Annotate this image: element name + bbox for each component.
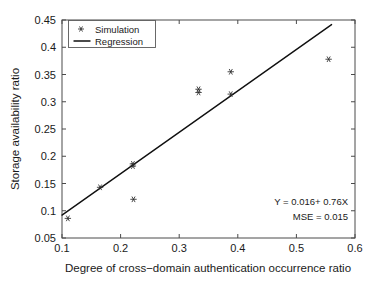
annotation-mse: MSE = 0.015 [293,211,348,222]
y-tick-label: 0.15 [35,178,56,190]
x-tick-label: 0.3 [172,242,187,254]
y-tick-label: 0.3 [41,96,56,108]
y-tick-label: 0.45 [35,14,56,26]
x-tick-label: 0.6 [347,242,362,254]
scatter-plot: 0.10.20.30.40.50.6 0.050.10.150.20.250.3… [0,0,374,286]
x-tick-label: 0.1 [54,242,69,254]
x-tick-label: 0.2 [113,242,128,254]
y-tick-label: 0.2 [41,150,56,162]
chart-legend[interactable]: Simulation Regression [69,21,156,48]
y-tick-label: 0.35 [35,69,56,81]
chart-figure: 0.10.20.30.40.50.6 0.050.10.150.20.250.3… [0,0,374,286]
legend-label-simulation: Simulation [95,24,139,35]
y-axis-title: Storage availability ratio [9,68,21,190]
x-axis-title: Degree of cross−domain authentication oc… [65,262,351,274]
x-tick-label: 0.4 [230,242,245,254]
y-tick-label: 0.4 [41,41,56,53]
x-tick-label: 0.5 [289,242,304,254]
legend-label-regression: Regression [95,36,143,47]
y-tick-label: 0.1 [41,205,56,217]
y-tick-label: 0.25 [35,123,56,135]
y-tick-label: 0.05 [35,232,56,244]
annotation-equation: Y = 0.016+ 0.76X [274,196,348,207]
